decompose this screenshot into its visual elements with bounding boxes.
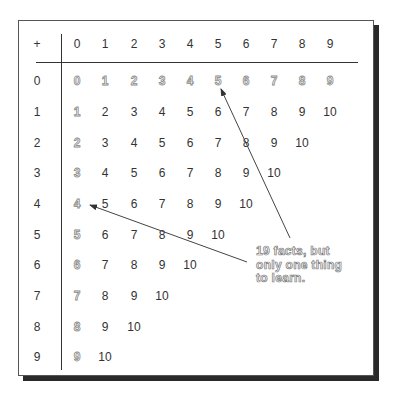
annotation-line-3: to learn. (256, 272, 342, 286)
arrow-to-row0-5 (221, 89, 290, 238)
annotation-note: 19 facts, but only one thing to learn. (256, 245, 342, 286)
arrow-to-col0-4 (90, 205, 247, 262)
annotation-line-1: 19 facts, but (256, 245, 342, 259)
arrows (0, 0, 396, 398)
annotation-line-2: only one thing (256, 259, 342, 273)
